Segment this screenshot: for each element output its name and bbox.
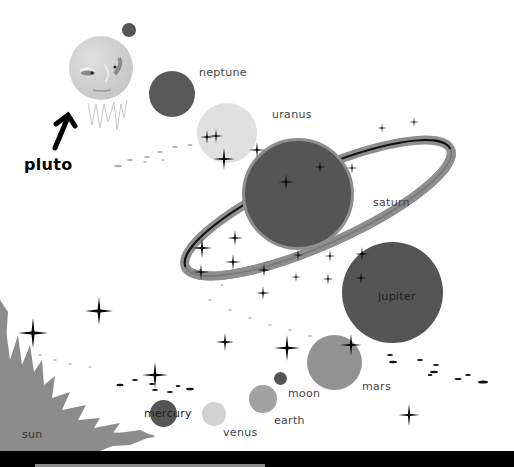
- uranus-label: uranus: [272, 108, 312, 121]
- moon-label: moon: [288, 387, 320, 400]
- stars-layer: [0, 0, 514, 467]
- solar-system-scene: pluto neptune uranus saturn jupiter mars…: [0, 0, 514, 467]
- venus-label: venus: [223, 426, 257, 439]
- mercury-label: mercury: [144, 407, 192, 420]
- neptune-label: neptune: [199, 66, 247, 79]
- jupiter-label: jupiter: [378, 290, 416, 303]
- sun-label: sun: [22, 428, 43, 441]
- earth-label: earth: [274, 414, 305, 427]
- saturn-label: saturn: [373, 196, 410, 209]
- mars-label: mars: [362, 380, 391, 393]
- star-icon: [18, 117, 420, 426]
- pluto-label: pluto: [24, 155, 72, 174]
